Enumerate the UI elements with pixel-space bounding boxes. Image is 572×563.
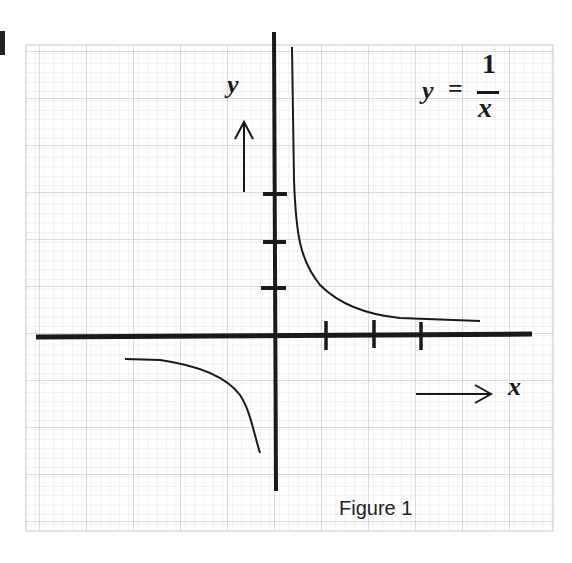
y-axis-label: y bbox=[227, 70, 239, 100]
equation-numerator: 1 bbox=[482, 48, 496, 80]
equation-label: y = 1 x bbox=[422, 54, 512, 134]
x-axis-label: x bbox=[508, 372, 521, 402]
equation-denominator: x bbox=[478, 92, 492, 124]
x-axis bbox=[36, 334, 532, 337]
figure-caption: Figure 1 bbox=[339, 497, 412, 520]
equation-lhs: y bbox=[422, 76, 434, 106]
y-axis bbox=[274, 32, 276, 491]
equation-equals: = bbox=[448, 74, 463, 104]
